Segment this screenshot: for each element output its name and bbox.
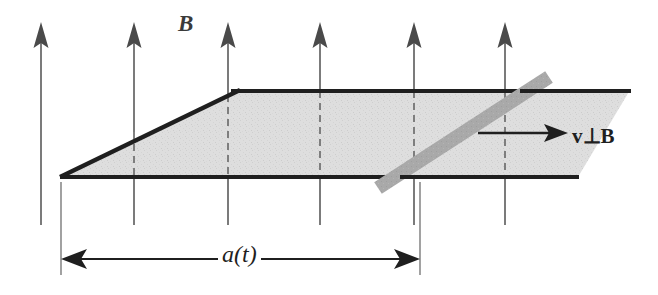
field-arrowhead-group — [34, 22, 513, 48]
dimension-label-a-of-t: a(t) — [218, 241, 261, 268]
velocity-perpendicular-field-label: v⊥B — [572, 124, 615, 149]
physics-diagram — [0, 0, 658, 295]
magnetic-field-label: B — [178, 11, 193, 37]
